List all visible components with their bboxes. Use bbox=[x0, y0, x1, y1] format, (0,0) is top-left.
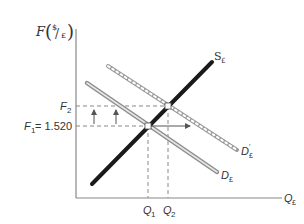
svg-text:2: 2 bbox=[171, 210, 176, 219]
x-axis-label: Q £ bbox=[284, 192, 296, 206]
new-demand-label: D £ ′ bbox=[241, 143, 253, 159]
svg-text:£: £ bbox=[229, 176, 233, 183]
quantity-label-q1: Q 1 bbox=[143, 204, 156, 219]
demand-label: D £ bbox=[221, 169, 233, 183]
quantity-label-q2: Q 2 bbox=[163, 204, 176, 219]
svg-text:D: D bbox=[241, 145, 249, 157]
price-label-f1: F 1 = 1.520 bbox=[24, 120, 72, 135]
supply-label: S £ bbox=[214, 50, 225, 65]
svg-text:£: £ bbox=[292, 199, 296, 206]
svg-text:= 1.520: = 1.520 bbox=[35, 120, 72, 132]
equilibrium-2-marker bbox=[165, 103, 171, 109]
forward-market-diagram: F ( $ / £ ) F 2 F 1 = 1.520 Q 1 Q 2 Q £ … bbox=[0, 0, 304, 224]
svg-text:1: 1 bbox=[151, 210, 156, 219]
svg-text:/: / bbox=[55, 27, 60, 41]
svg-text:2: 2 bbox=[67, 106, 72, 115]
svg-text:£: £ bbox=[221, 57, 225, 65]
y-axis-label: F ( $ / £ ) bbox=[35, 21, 74, 42]
svg-text:D: D bbox=[221, 169, 229, 181]
svg-text:): ) bbox=[67, 21, 74, 42]
svg-text:£: £ bbox=[249, 152, 253, 159]
price-label-f2: F 2 bbox=[60, 100, 72, 115]
svg-text:£: £ bbox=[61, 31, 66, 40]
equilibrium-1-marker bbox=[145, 123, 151, 129]
svg-text:(: ( bbox=[45, 21, 52, 42]
svg-text:′: ′ bbox=[249, 143, 251, 150]
